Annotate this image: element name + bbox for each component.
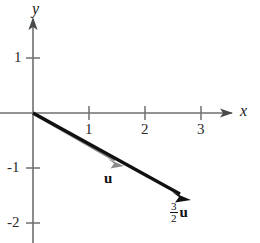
x-tick-label-3: 3: [197, 122, 205, 137]
coordinate-plane-svg: [0, 0, 260, 243]
fraction-denominator: 2: [170, 212, 178, 224]
x-tick-label-2: 2: [141, 122, 149, 137]
vector-scaling-figure: 1 2 3 1 -1 -2 x y u 3 2 u: [0, 0, 260, 243]
y-axis-label: y: [32, 1, 39, 17]
vector-scaled-label: 3 2 u: [170, 201, 188, 224]
vector-symbol-u: u: [180, 204, 188, 221]
vector-u-label: u: [104, 171, 112, 186]
x-tick-label-1: 1: [85, 122, 93, 137]
x-axis-label: x: [240, 103, 247, 119]
fraction-three-halves: 3 2: [170, 201, 178, 224]
y-tick-label-neg1: -1: [7, 160, 20, 175]
fraction-numerator: 3: [170, 201, 178, 212]
y-tick-label-1: 1: [14, 50, 22, 65]
y-tick-label-neg2: -2: [7, 215, 20, 230]
